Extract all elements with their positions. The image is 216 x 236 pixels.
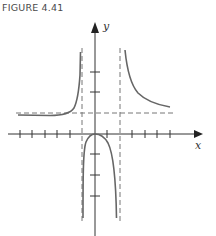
y-axis-arrow-icon [91, 22, 99, 33]
right-branch [125, 50, 170, 107]
y-axis-label: y [102, 20, 110, 33]
x-axis-label: x [195, 139, 202, 152]
middle-branch [83, 134, 117, 218]
axes [8, 30, 196, 236]
x-axis-arrow-icon [194, 130, 203, 138]
left-branch [18, 52, 81, 116]
chart-plot: x y [0, 0, 216, 236]
